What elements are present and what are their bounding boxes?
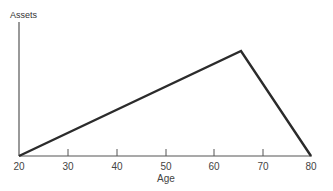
assets-age-chart: 20 30 40 50 60 70 80 Age Assets <box>0 0 333 191</box>
x-tick-label: 70 <box>257 161 269 172</box>
x-tick-label: 40 <box>111 161 123 172</box>
x-ticks <box>68 149 263 156</box>
x-tick-label: 30 <box>62 161 74 172</box>
x-tick-labels: 20 30 40 50 60 70 80 <box>13 161 317 172</box>
x-tick-label: 80 <box>305 161 317 172</box>
assets-line <box>19 51 311 156</box>
x-axis-label: Age <box>157 173 175 184</box>
x-tick-label: 60 <box>208 161 220 172</box>
x-tick-label: 50 <box>160 161 172 172</box>
x-tick-label: 20 <box>13 161 25 172</box>
y-axis-label: Assets <box>10 10 38 20</box>
